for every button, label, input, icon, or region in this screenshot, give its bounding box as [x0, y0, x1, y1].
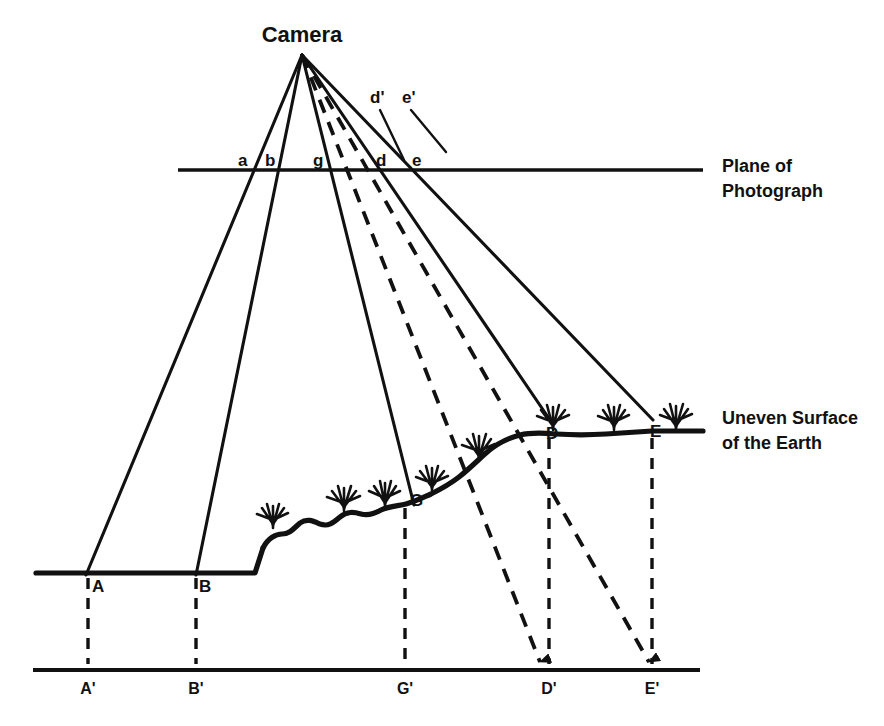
- ground-point-labels: A B G D E: [92, 422, 661, 596]
- label-point-B: B: [199, 577, 211, 596]
- label-point-d-prime: d': [370, 88, 384, 107]
- solid-camera-rays: [86, 55, 653, 575]
- grass-tuft-icon: [660, 404, 692, 430]
- label-point-a: a: [238, 151, 248, 170]
- grass-tuft-icon: [369, 481, 400, 507]
- label-uneven-surface-line2: of the Earth: [722, 433, 822, 453]
- ray-camera-to-E: [302, 55, 653, 420]
- grass-tuft-icon: [598, 405, 629, 430]
- label-point-A: A: [92, 577, 104, 596]
- ray-camera-to-G: [302, 55, 414, 505]
- label-plane-of-photograph-line2: Photograph: [722, 181, 823, 201]
- annotation-uneven-surface: Uneven Surface of the Earth: [722, 408, 858, 453]
- dashed-camera-rays: [302, 55, 649, 662]
- grass-tuft-icon: [257, 504, 288, 528]
- annotation-plane-of-photograph: Plane of Photograph: [722, 156, 823, 201]
- label-plane-of-photograph-line1: Plane of: [722, 156, 793, 176]
- label-point-D-prime: D': [541, 680, 556, 697]
- label-point-D: D: [546, 424, 558, 443]
- label-point-e-prime: e': [402, 88, 416, 107]
- ray-camera-to-B: [196, 55, 302, 575]
- leader-e-prime: [411, 110, 446, 152]
- label-point-E: E: [650, 422, 661, 441]
- label-point-e: e: [412, 151, 421, 170]
- label-point-d: d: [376, 151, 386, 170]
- flat-ground-left: [36, 548, 263, 573]
- ray-camera-to-D: [302, 55, 550, 420]
- label-point-g: g: [313, 151, 323, 170]
- label-point-A-prime: A': [80, 680, 95, 697]
- label-point-E-prime: E': [645, 680, 659, 697]
- dashed-ray-camera-to-D-prime: [302, 55, 540, 662]
- label-point-G: G: [410, 491, 423, 510]
- vertical-projection-lines: [88, 438, 652, 664]
- ray-camera-to-A: [86, 55, 302, 575]
- grass-tuft-icon: [462, 434, 495, 460]
- label-camera: Camera: [262, 22, 343, 47]
- dashed-ray-camera-to-E-prime: [302, 55, 649, 662]
- photogrammetry-relief-diagram: Camera a b g d e d' e' A B G D E A' B' G…: [0, 0, 884, 726]
- label-point-G-prime: G': [397, 680, 413, 697]
- label-point-B-prime: B': [188, 680, 203, 697]
- label-uneven-surface-line1: Uneven Surface: [722, 408, 858, 428]
- figure-canvas: Camera a b g d e d' e' A B G D E A' B' G…: [0, 0, 884, 726]
- grass-tuft-icon: [327, 486, 360, 511]
- datum-point-labels: A' B' G' D' E': [80, 680, 659, 697]
- label-point-b: b: [265, 151, 275, 170]
